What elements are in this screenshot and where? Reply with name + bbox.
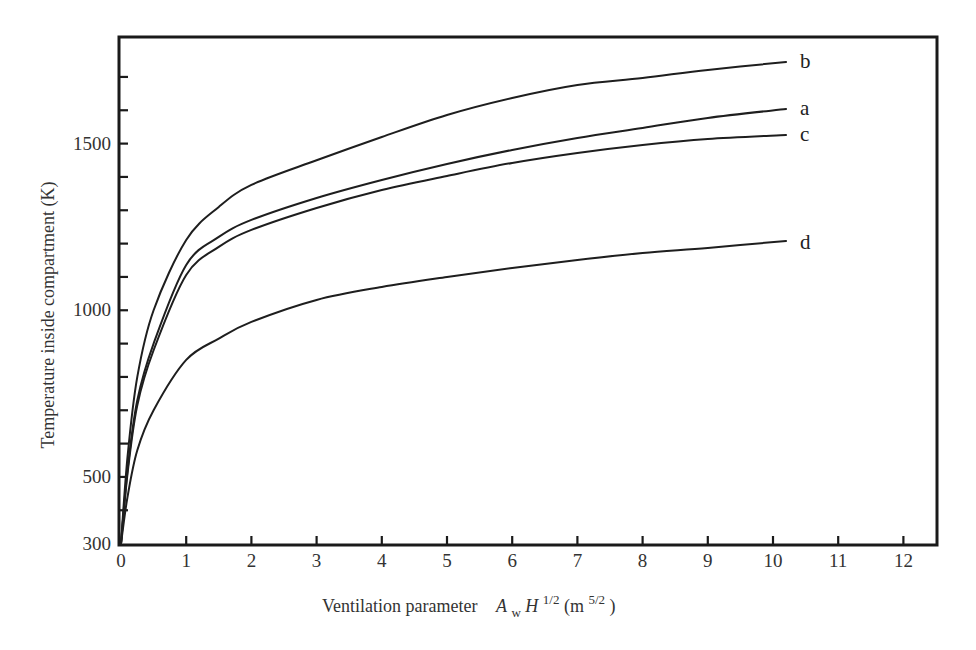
y-axis-title: Temperature inside compartment (K) bbox=[38, 181, 59, 448]
curve-labels: bacd bbox=[800, 49, 811, 254]
x-tick-label: 7 bbox=[573, 550, 583, 571]
x-tick-label: 0 bbox=[116, 550, 126, 571]
x-tick-label: 2 bbox=[247, 550, 257, 571]
x-tick-label: 3 bbox=[312, 550, 322, 571]
curve-label-b: b bbox=[800, 49, 811, 73]
x-tick-label: 5 bbox=[442, 550, 452, 571]
x-tick-label: 12 bbox=[894, 550, 913, 571]
line-chart: 30050010001500 0123456789101112 bacd Tem… bbox=[0, 0, 976, 650]
x-tick-label: 4 bbox=[377, 550, 387, 571]
curve-b bbox=[121, 62, 786, 544]
curve-label-c: c bbox=[800, 122, 809, 146]
x-axis-title-text: Ventilation parameter bbox=[322, 596, 477, 616]
y-tick-label: 1500 bbox=[73, 133, 111, 154]
x-tick-label: 10 bbox=[764, 550, 783, 571]
plot-frame bbox=[119, 37, 937, 545]
curve-c bbox=[121, 135, 786, 544]
x-tick-label: 6 bbox=[507, 550, 517, 571]
x-tick-label: 9 bbox=[703, 550, 713, 571]
x-tick-label: 11 bbox=[829, 550, 847, 571]
x-axis-title: Ventilation parameter A w H 1/2 (m 5/2 ) bbox=[322, 588, 616, 621]
y-tick-label: 500 bbox=[83, 466, 112, 487]
curve-label-d: d bbox=[800, 230, 811, 254]
x-tick-label: 8 bbox=[638, 550, 648, 571]
y-tick-label: 300 bbox=[83, 533, 112, 554]
curve-label-a: a bbox=[800, 96, 810, 120]
curves bbox=[121, 62, 786, 544]
plot-border bbox=[119, 37, 937, 545]
x-tick-label: 1 bbox=[181, 550, 191, 571]
x-axis-ticks: 0123456789101112 bbox=[116, 536, 913, 571]
curve-d bbox=[121, 241, 786, 544]
y-tick-label: 1000 bbox=[73, 299, 111, 320]
